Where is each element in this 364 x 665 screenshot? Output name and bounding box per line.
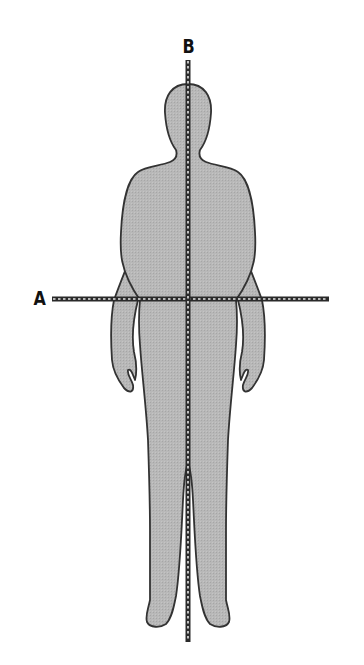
axis-label-a: A [34, 286, 46, 310]
body-diagram [0, 0, 364, 665]
axis-label-b: B [183, 34, 195, 58]
